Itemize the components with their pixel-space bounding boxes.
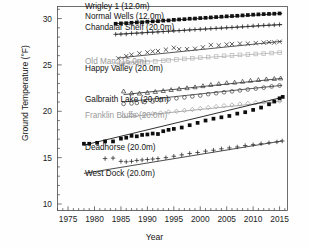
data-point [161,129,165,133]
data-point [121,89,125,93]
chart-plot-area: 1975198019851990199520002005201020151015… [0,0,309,247]
data-point [204,16,208,20]
data-point [193,17,197,21]
data-point [278,12,282,16]
data-point [278,96,282,100]
data-point [156,132,160,136]
data-point [214,15,218,19]
series-label: Normal Wells (12.0m) [85,12,164,21]
data-point [262,12,266,16]
data-point [190,107,194,111]
data-point [130,134,134,138]
trend-line [84,97,282,145]
data-point [188,123,192,127]
data-point [259,106,263,110]
trend-line [124,78,283,94]
data-point [222,90,226,94]
data-point [246,13,250,17]
data-point [220,15,224,19]
series-label: Franklin Bluffs (20.0m) [85,111,167,120]
series-label: Galbraith Lake (20.0m) [85,95,169,104]
data-point [201,84,205,88]
data-point [174,109,178,113]
data-point [172,18,176,22]
data-point [204,119,208,123]
data-point [212,117,216,121]
data-point [153,60,157,64]
data-point [235,14,239,18]
x-axis-tick-label: 2005 [217,214,236,224]
data-point [225,14,229,18]
data-point [230,89,234,93]
data-point [124,136,128,140]
data-point [183,17,187,21]
data-point [251,108,255,112]
series-happy-valley-20-0m [121,76,282,95]
y-axis-tick-label: 30 [43,14,53,24]
data-point [196,121,200,125]
data-point [140,133,144,137]
x-axis-tick-label: 2000 [191,214,210,224]
data-point [235,112,239,116]
data-point [167,128,171,132]
series-label: West Dock (20.0m) [85,169,155,178]
y-axis-tick-label: 10 [43,199,53,209]
data-point [209,16,213,20]
data-point [230,14,234,18]
x-axis-tick-label: 1990 [138,214,157,224]
x-axis-tick-label: 1985 [112,214,131,224]
data-point [272,12,276,16]
data-point [243,110,247,114]
data-point [180,126,184,130]
data-point [241,14,245,18]
data-point [188,17,192,21]
data-point [182,108,186,112]
data-point [119,137,123,141]
data-point [272,77,276,81]
series-label: Happy Valley (20.0m) [85,64,163,73]
x-axis-title: Year [0,232,309,242]
x-axis-tick-label: 1995 [165,214,184,224]
data-point [272,100,276,104]
series-label: Wrigley 1 (12.0m) [85,2,150,11]
data-point [227,114,231,118]
data-point [267,102,271,106]
x-axis-tick-label: 1980 [85,214,104,224]
data-point [146,133,150,137]
x-axis-tick-label: 2015 [270,214,289,224]
y-axis-tick-label: 25 [43,60,53,70]
data-point [281,95,285,99]
data-point [220,115,224,119]
data-point [251,13,255,17]
data-point [175,96,179,100]
x-axis-tick-label: 2010 [244,214,263,224]
data-point [267,12,271,16]
data-point [135,134,139,138]
data-point [177,18,181,22]
series-label: Chandalar Shelf (20.0m) [85,23,174,32]
y-axis-tick-label: 15 [43,153,53,163]
data-point [172,127,176,131]
y-axis-title: Ground Temperature (°F) [20,38,30,148]
data-point [198,106,202,110]
data-point [198,16,202,20]
x-axis-tick-label: 1975 [59,214,78,224]
data-point [238,89,242,93]
series-label: Deadhorse (20.0m) [85,143,156,152]
y-axis-tick-label: 20 [43,106,53,116]
data-point [257,13,261,17]
chart-figure: 1975198019851990199520002005201020151015… [0,0,309,247]
data-point [151,132,155,136]
data-point [183,96,187,100]
